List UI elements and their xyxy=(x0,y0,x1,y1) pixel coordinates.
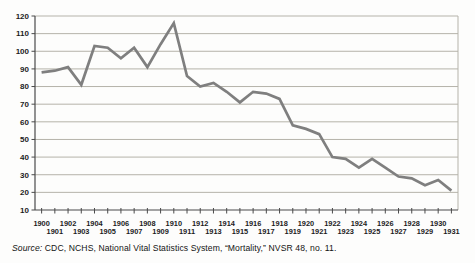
source-note: Source: CDC, NCHS, National Vital Statis… xyxy=(12,243,336,253)
x-axis-year-label: 1905 xyxy=(99,227,115,236)
y-axis-tick-label: 60 xyxy=(20,118,29,127)
x-axis-year-label: 1919 xyxy=(285,227,301,236)
data-series-line xyxy=(42,23,452,191)
x-axis-year-label: 1925 xyxy=(364,227,380,236)
x-axis-year-label: 1915 xyxy=(232,227,248,236)
source-label: Source: xyxy=(12,243,42,253)
mortality-chart-figure: 1020304050607080901001101201900190119021… xyxy=(0,0,475,263)
y-axis-tick-label: 40 xyxy=(20,153,29,162)
y-axis-tick-label: 110 xyxy=(16,29,29,38)
x-axis-year-label: 1917 xyxy=(258,227,274,236)
x-axis-year-label: 1931 xyxy=(443,227,459,236)
y-axis-tick-label: 70 xyxy=(20,100,29,109)
x-axis-year-label: 1903 xyxy=(73,227,89,236)
y-axis-tick-label: 30 xyxy=(20,171,29,180)
x-axis-year-label: 1929 xyxy=(417,227,433,236)
x-axis-year-label: 1923 xyxy=(337,227,353,236)
y-axis-tick-label: 20 xyxy=(20,188,29,197)
y-axis-tick-label: 90 xyxy=(20,65,29,74)
x-axis-year-label: 1927 xyxy=(390,227,406,236)
x-axis-year-label: 1911 xyxy=(179,227,195,236)
x-axis-year-label: 1901 xyxy=(47,227,63,236)
mortality-line-chart: 1020304050607080901001101201900190119021… xyxy=(0,0,475,240)
y-axis-tick-label: 50 xyxy=(20,135,29,144)
y-axis-tick-label: 10 xyxy=(20,206,29,215)
y-axis-tick-label: 100 xyxy=(16,47,30,56)
x-axis-year-label: 1921 xyxy=(311,227,327,236)
y-axis-tick-label: 120 xyxy=(16,12,30,21)
x-axis-year-label: 1909 xyxy=(152,227,168,236)
x-axis-year-label: 1913 xyxy=(205,227,221,236)
x-axis-year-label: 1907 xyxy=(126,227,142,236)
y-axis-tick-label: 80 xyxy=(20,82,29,91)
source-text: CDC, NCHS, National Vital Statistics Sys… xyxy=(42,243,336,253)
